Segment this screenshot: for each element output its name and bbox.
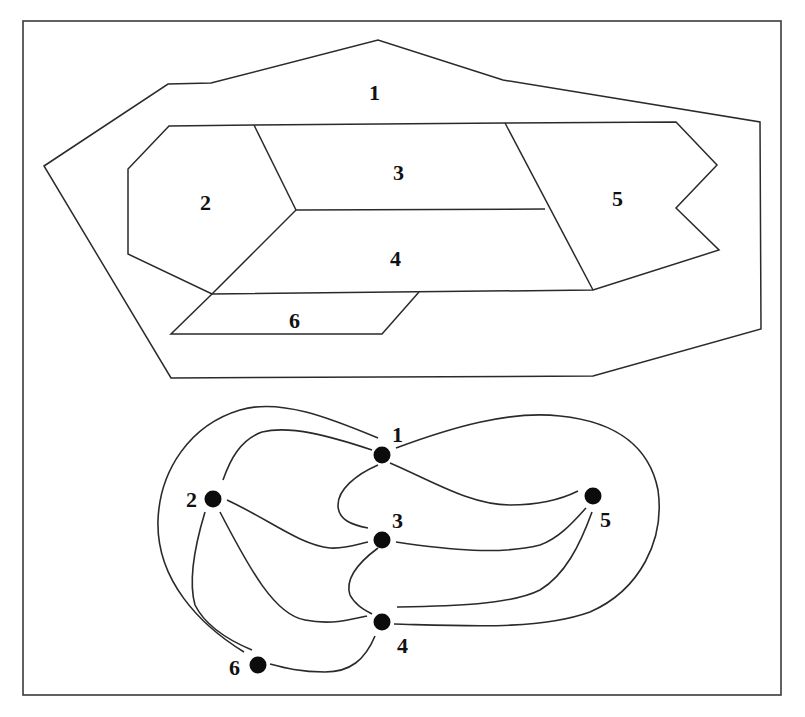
border-3-4: [296, 209, 545, 210]
graph-node-3: [374, 532, 391, 549]
edge-1-5: [390, 463, 578, 505]
node-label-1: 1: [392, 422, 403, 447]
region-label-2: 2: [200, 190, 211, 215]
region-label-1: 1: [369, 80, 380, 105]
graph-node-1: [374, 447, 391, 464]
edge-2-6: [192, 512, 252, 650]
inner-boundary: [128, 122, 719, 294]
edge-3-4: [349, 548, 378, 614]
region-label-6: 6: [289, 308, 300, 333]
node-label-3: 3: [392, 508, 403, 533]
graph-node-5: [585, 488, 602, 505]
node-label-4: 4: [397, 633, 408, 658]
node-label-2: 2: [186, 487, 197, 512]
border-2-3: [254, 125, 296, 210]
edge-1-5-outer: [394, 415, 659, 626]
graph-node-2: [205, 491, 222, 508]
map-and-dual-graph-figure: 1 2 3 4 5 6: [0, 0, 805, 717]
border-3-4-5: [505, 123, 593, 290]
edge-2-3: [227, 500, 368, 548]
graph-node-4: [374, 614, 391, 631]
graph-node-6: [250, 657, 267, 674]
region-label-4: 4: [390, 246, 401, 271]
node-label-5: 5: [600, 507, 611, 532]
edge-1-3: [338, 465, 378, 528]
dual-graph: 1 2 3 4 5 6: [158, 406, 659, 680]
edge-4-5-inner: [397, 512, 592, 607]
edge-4-6: [270, 636, 375, 672]
region-label-5: 5: [612, 186, 623, 211]
edge-2-4: [220, 512, 367, 622]
edge-1-2: [223, 430, 372, 480]
border-2-4: [212, 210, 296, 294]
node-label-6: 6: [229, 655, 240, 680]
edge-3-5: [396, 508, 586, 551]
planar-map: 1 2 3 4 5 6: [44, 40, 761, 378]
edge-1-6-outer: [158, 406, 378, 652]
region-label-3: 3: [393, 160, 404, 185]
